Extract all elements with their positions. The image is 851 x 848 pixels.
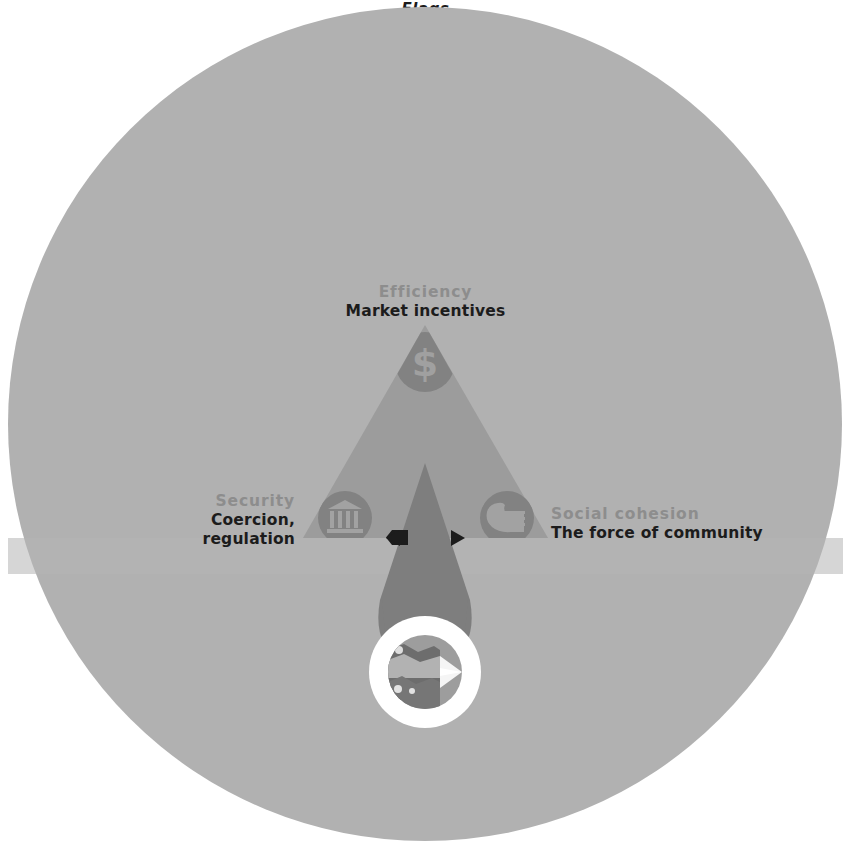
lens-photo	[388, 635, 462, 709]
vertex-description-efficiency: Market incentives	[0, 302, 851, 321]
vertex-category-social-cohesion: Social cohesion	[551, 505, 763, 524]
handshake-icon	[480, 491, 534, 545]
vertex-label-social-cohesion: Social cohesion The force of community	[551, 505, 763, 543]
bank-building-icon	[318, 491, 372, 545]
svg-text:$: $	[412, 341, 438, 385]
vertex-label-security: Security Coercion, regulation	[203, 492, 295, 549]
triangle-diagram-graphic: $	[0, 0, 851, 848]
vertex-description-security-line1: Coercion,	[203, 511, 295, 530]
vertex-category-efficiency: Efficiency	[0, 283, 851, 302]
vertex-description-security-line2: regulation	[203, 530, 295, 549]
figure-canvas: $	[0, 0, 851, 848]
vertex-label-efficiency: Efficiency Market incentives	[0, 283, 851, 321]
vertex-category-security: Security	[203, 492, 295, 511]
vertex-description-social-cohesion: The force of community	[551, 524, 763, 543]
